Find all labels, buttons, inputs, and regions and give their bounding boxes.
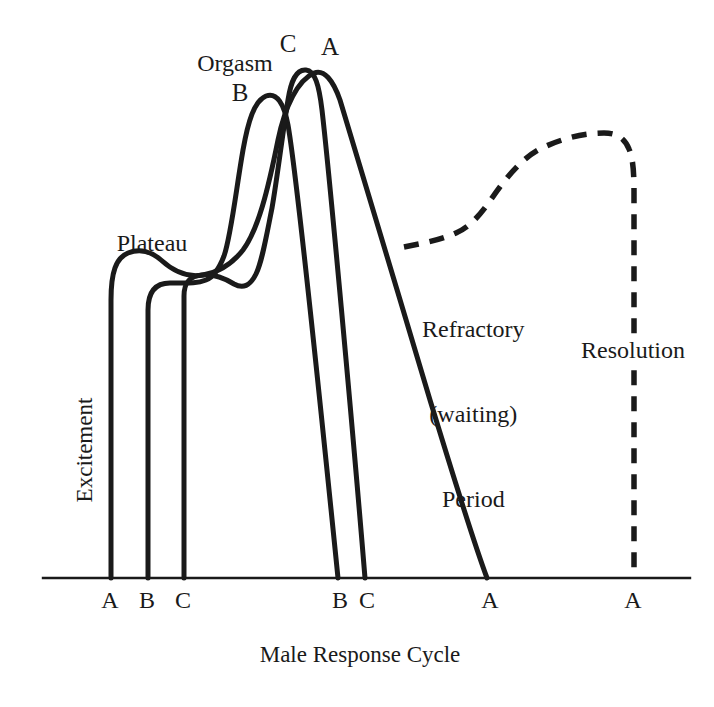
axis-mark-c-start: C bbox=[175, 586, 191, 614]
axis-mark-b-start: B bbox=[139, 586, 155, 614]
y-axis-label-excitement: Excitement bbox=[71, 398, 98, 503]
axis-mark-a-resolution: A bbox=[624, 586, 641, 614]
peak-label-a: A bbox=[321, 32, 339, 62]
label-plateau: Plateau bbox=[117, 229, 188, 257]
peak-label-b: B bbox=[232, 78, 249, 108]
label-refractory-line1: Refractory bbox=[422, 315, 525, 343]
label-refractory-period: Refractory (waiting) Period bbox=[422, 258, 525, 569]
figure-canvas: Plateau Orgasm B C A Refractory (waiting… bbox=[0, 0, 714, 707]
label-resolution: Resolution bbox=[576, 336, 690, 364]
axis-mark-a-end: A bbox=[481, 586, 498, 614]
curve-b-path bbox=[148, 95, 338, 578]
axis-mark-a-start: A bbox=[101, 586, 118, 614]
label-refractory-line3: Period bbox=[422, 485, 525, 513]
peak-label-c: C bbox=[280, 29, 297, 59]
axis-mark-b-end: B bbox=[332, 586, 348, 614]
figure-title: Male Response Cycle bbox=[260, 641, 461, 668]
axis-mark-c-end: C bbox=[359, 586, 375, 614]
label-orgasm: Orgasm bbox=[197, 49, 273, 77]
label-refractory-line2: (waiting) bbox=[422, 400, 525, 428]
